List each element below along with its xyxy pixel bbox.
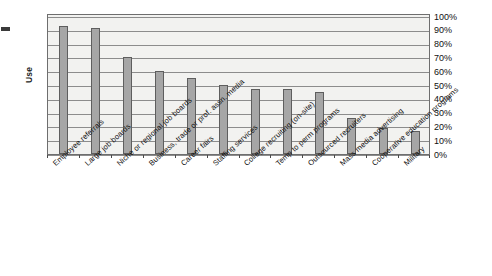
y-axis-tick-label: 80% bbox=[434, 40, 452, 49]
y-axis-title: Use bbox=[14, 60, 44, 90]
bar bbox=[187, 78, 196, 154]
chart-figure: Use 100%90%80%70%60%50%40%30%20%10%0% Em… bbox=[0, 0, 492, 276]
x-axis-category-labels: Employee referralsLarge job boardsNiche … bbox=[0, 155, 492, 276]
bar bbox=[155, 71, 164, 154]
y-axis-tick-label: 60% bbox=[434, 68, 452, 77]
y-axis-tick-label: 20% bbox=[434, 123, 452, 132]
bar bbox=[123, 57, 132, 154]
y-axis-tick-label: 100% bbox=[434, 13, 457, 22]
y-axis-tick-label: 10% bbox=[434, 137, 452, 146]
edge-marker bbox=[1, 27, 10, 31]
y-axis-tick-label: 90% bbox=[434, 26, 452, 35]
bar bbox=[59, 26, 68, 154]
y-axis-tick-label: 70% bbox=[434, 54, 452, 63]
